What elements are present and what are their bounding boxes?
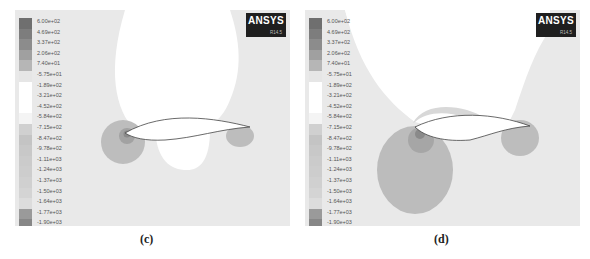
- legend-entry: -1.77e+03: [309, 209, 369, 220]
- legend-swatch: [19, 166, 32, 177]
- legend-swatch: [19, 50, 32, 61]
- legend-label: -5.84e+02: [37, 113, 62, 119]
- legend-label: -4.52e+02: [327, 103, 352, 109]
- legend-swatch: [309, 18, 322, 29]
- legend-label: -1.90e+03: [37, 219, 62, 225]
- color-legend: 6.00e+024.69e+023.37e+022.06e+027.40e+01…: [309, 18, 369, 226]
- legend-swatch: [309, 92, 322, 103]
- legend-swatch: [19, 113, 32, 124]
- legend-entry: -1.11e+03: [19, 156, 79, 167]
- legend-entry: 2.06e+02: [19, 50, 79, 61]
- legend-label: -8.47e+02: [37, 135, 62, 141]
- legend-entry: -1.89e+02: [19, 82, 79, 93]
- legend-entry: -3.21e+02: [309, 92, 369, 103]
- legend-entry: 7.40e+01: [309, 60, 369, 71]
- legend-label: 2.06e+02: [37, 50, 60, 56]
- contour-panel-c: 6.00e+024.69e+023.37e+022.06e+027.40e+01…: [15, 10, 290, 226]
- legend-swatch: [309, 166, 322, 177]
- legend-swatch: [19, 18, 32, 29]
- legend-swatch: [19, 103, 32, 114]
- legend-entry: -5.84e+02: [309, 113, 369, 124]
- legend-label: 6.00e+02: [37, 18, 60, 24]
- legend-label: -1.64e+03: [37, 198, 62, 204]
- legend-label: -1.11e+03: [37, 156, 62, 162]
- legend-label: -3.21e+02: [37, 92, 62, 98]
- legend-entry: -8.47e+02: [19, 135, 79, 146]
- legend-entry: 7.40e+01: [19, 60, 79, 71]
- logo-brand: ANSYS: [246, 15, 286, 26]
- legend-label: -7.15e+02: [327, 124, 352, 130]
- legend-swatch: [309, 145, 322, 156]
- legend-swatch: [309, 188, 322, 199]
- legend-entry: -1.64e+03: [309, 198, 369, 209]
- legend-swatch: [19, 209, 32, 220]
- legend-label: -1.37e+03: [37, 177, 62, 183]
- legend-swatch: [19, 135, 32, 146]
- legend-label: -1.89e+02: [327, 82, 352, 88]
- legend-entry: -9.78e+02: [19, 145, 79, 156]
- legend-label: 4.69e+02: [37, 29, 60, 35]
- legend-entry: -1.24e+03: [19, 166, 79, 177]
- legend-swatch: [19, 82, 32, 93]
- legend-entry: -1.24e+03: [309, 166, 369, 177]
- legend-entry: -4.52e+02: [19, 103, 79, 114]
- legend-swatch: [19, 188, 32, 199]
- legend-entry: 4.69e+02: [19, 29, 79, 40]
- logo-version: R14.5: [270, 30, 282, 35]
- legend-label: 7.40e+01: [37, 60, 60, 66]
- legend-swatch: [309, 82, 322, 93]
- legend-entry: 3.37e+02: [309, 39, 369, 50]
- legend-entry: -1.90e+03: [19, 219, 79, 226]
- legend-entry: -7.15e+02: [19, 124, 79, 135]
- legend-swatch: [309, 219, 322, 226]
- legend-swatch: [19, 219, 32, 226]
- legend-swatch: [309, 39, 322, 50]
- legend-label: 3.37e+02: [37, 39, 60, 45]
- legend-label: -1.77e+03: [37, 209, 62, 215]
- legend-entry: -7.15e+02: [309, 124, 369, 135]
- legend-swatch: [19, 60, 32, 71]
- legend-label: -1.90e+03: [327, 219, 352, 225]
- legend-swatch: [309, 50, 322, 61]
- color-legend: 6.00e+024.69e+023.37e+022.06e+027.40e+01…: [19, 18, 79, 226]
- legend-label: -3.21e+02: [327, 92, 352, 98]
- legend-label: 4.69e+02: [327, 29, 350, 35]
- legend-swatch: [19, 71, 32, 82]
- legend-swatch: [309, 124, 322, 135]
- legend-entry: -5.84e+02: [19, 113, 79, 124]
- legend-entry: -1.37e+03: [19, 177, 79, 188]
- logo-brand: ANSYS: [536, 15, 576, 26]
- legend-swatch: [309, 198, 322, 209]
- caption-d: (d): [434, 232, 449, 247]
- legend-swatch: [19, 198, 32, 209]
- legend-label: -9.78e+02: [327, 145, 352, 151]
- legend-label: 2.06e+02: [327, 50, 350, 56]
- legend-entry: -4.52e+02: [309, 103, 369, 114]
- logo-version: R14.5: [560, 30, 572, 35]
- legend-entry: -3.21e+02: [19, 92, 79, 103]
- legend-entry: -1.37e+03: [309, 177, 369, 188]
- legend-entry: -5.75e+01: [309, 71, 369, 82]
- legend-swatch: [309, 60, 322, 71]
- legend-entry: -1.50e+03: [309, 188, 369, 199]
- legend-label: -8.47e+02: [327, 135, 352, 141]
- legend-label: 3.37e+02: [327, 39, 350, 45]
- legend-label: -1.89e+02: [37, 82, 62, 88]
- legend-swatch: [19, 92, 32, 103]
- legend-label: -1.50e+03: [37, 188, 62, 194]
- legend-label: -5.84e+02: [327, 113, 352, 119]
- legend-swatch: [19, 177, 32, 188]
- ansys-logo: ANSYS R14.5: [536, 13, 576, 37]
- legend-swatch: [309, 177, 322, 188]
- legend-swatch: [309, 135, 322, 146]
- legend-swatch: [309, 156, 322, 167]
- legend-label: -1.24e+03: [37, 166, 62, 172]
- legend-entry: 6.00e+02: [19, 18, 79, 29]
- legend-entry: -1.77e+03: [19, 209, 79, 220]
- legend-label: -7.15e+02: [37, 124, 62, 130]
- legend-swatch: [309, 29, 322, 40]
- legend-swatch: [19, 39, 32, 50]
- legend-entry: -1.50e+03: [19, 188, 79, 199]
- legend-label: -5.75e+01: [327, 71, 352, 77]
- legend-entry: -9.78e+02: [309, 145, 369, 156]
